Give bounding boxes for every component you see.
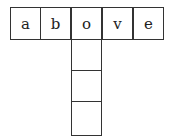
cell-4: v xyxy=(102,7,133,40)
letter: o xyxy=(82,15,91,33)
cell-2: b xyxy=(40,7,71,40)
cell-1: a xyxy=(10,7,41,40)
cell-3: o xyxy=(71,7,102,40)
blank-cell-1[interactable] xyxy=(71,39,102,71)
letter: a xyxy=(21,15,30,33)
cell-5: e xyxy=(133,7,164,40)
blank-cell-2[interactable] xyxy=(71,70,102,102)
blank-cell-3[interactable] xyxy=(71,101,102,136)
letter: e xyxy=(144,15,153,33)
letter: b xyxy=(51,15,61,33)
letter: v xyxy=(113,15,121,33)
